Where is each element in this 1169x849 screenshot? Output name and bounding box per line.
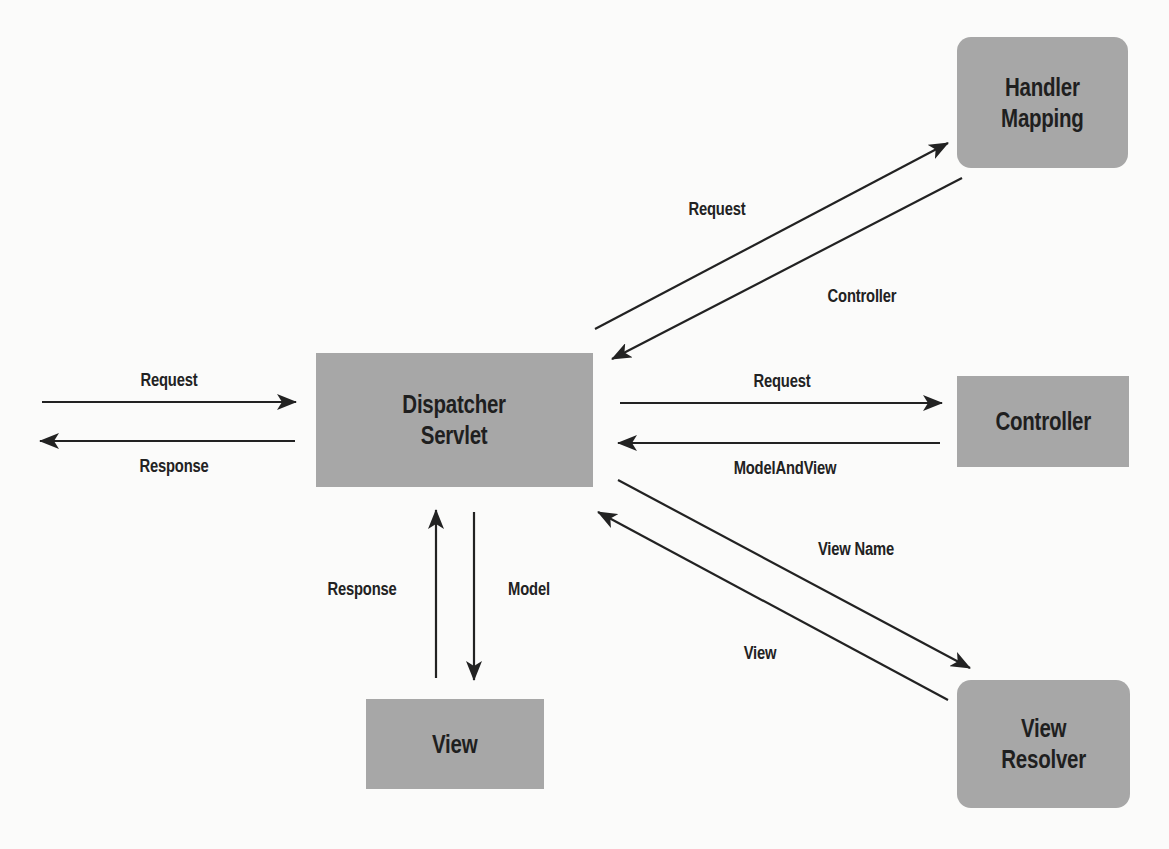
view-node: View (366, 699, 544, 789)
label-vr-viewname: View Name (818, 539, 894, 560)
controller-line1: Controller (995, 406, 1090, 437)
label-client-request: Request (140, 370, 197, 391)
handler-mapping-line2: Mapping (1001, 103, 1084, 134)
label-view-model: Model (508, 579, 550, 600)
label-vr-view: View (744, 643, 777, 664)
view-line1: View (432, 729, 477, 760)
label-hm-request: Request (688, 199, 745, 220)
dispatcher-servlet-line1: Dispatcher (403, 389, 506, 420)
label-client-response: Response (139, 456, 208, 477)
view-resolver-line1: View (1001, 713, 1086, 744)
dispatcher-servlet-line2: Servlet (403, 420, 506, 451)
arrow-vr-viewname (618, 480, 970, 668)
label-ctrl-mav: ModelAndView (734, 458, 837, 479)
view-resolver-line2: Resolver (1001, 744, 1086, 775)
label-ctrl-request: Request (753, 371, 810, 392)
controller-node: Controller (957, 376, 1129, 467)
label-view-response: Response (327, 579, 396, 600)
arrow-hm-controller (612, 178, 962, 359)
handler-mapping-node: Handler Mapping (957, 37, 1128, 168)
view-resolver-node: View Resolver (957, 680, 1130, 808)
handler-mapping-line1: Handler (1001, 72, 1084, 103)
dispatcher-servlet-node: Dispatcher Servlet (316, 353, 593, 487)
arrow-vr-view (598, 512, 948, 700)
label-hm-controller: Controller (828, 286, 897, 307)
